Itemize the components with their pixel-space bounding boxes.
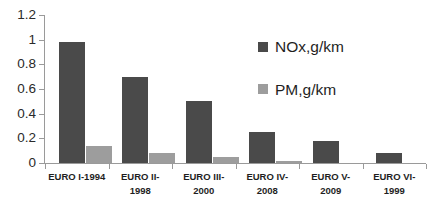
x-axis-label: EURO I-1994: [45, 170, 109, 184]
x-tick-mark: [236, 164, 237, 169]
y-tick-label: 0.2: [0, 132, 36, 146]
bar-group: [109, 15, 173, 163]
x-tick-mark: [172, 164, 173, 169]
bar-group: [172, 15, 236, 163]
x-axis-label: EURO V-2009: [299, 170, 363, 198]
legend-label: PM,g/km: [275, 82, 336, 98]
y-tick-label: 0.6: [0, 82, 36, 96]
y-tick-mark: [39, 114, 45, 115]
y-tick-label: 0.4: [0, 107, 36, 121]
legend-entry: NOx,g/km: [258, 39, 428, 55]
y-tick-mark: [39, 64, 45, 65]
x-tick-mark: [109, 164, 110, 169]
x-axis-label-line: EURO IV-: [236, 170, 300, 184]
bar-group: [45, 15, 109, 163]
legend-entry: PM,g/km: [258, 82, 428, 98]
bar-chart: 00.20.40.60.811.2 EURO I-1994EURO II-199…: [0, 0, 435, 216]
bar-nox: [376, 153, 402, 163]
bar-nox: [59, 42, 85, 163]
chart-legend: NOx,g/kmPM,g/km: [258, 39, 428, 124]
legend-label: NOx,g/km: [275, 39, 344, 55]
y-tick-mark: [39, 89, 45, 90]
x-axis-label: EURO IV-2008: [236, 170, 300, 198]
x-axis-label-line: EURO VI-: [363, 170, 427, 184]
x-axis-label-line: 2000: [172, 184, 236, 198]
x-axis-label: EURO VI-1999: [363, 170, 427, 198]
x-axis-label-line: 1999: [363, 184, 427, 198]
y-tick-label: 0: [0, 156, 36, 170]
x-axis-labels: EURO I-1994EURO II-1998EURO III-2000EURO…: [45, 170, 426, 216]
x-axis-label-line: EURO V-: [299, 170, 363, 184]
y-tick-mark: [39, 40, 45, 41]
x-axis-label: EURO II-1998: [109, 170, 173, 198]
y-tick-mark: [39, 138, 45, 139]
legend-swatch-icon: [258, 42, 268, 52]
x-tick-mark: [426, 164, 427, 169]
y-tick-label: 0.8: [0, 58, 36, 72]
x-axis-label-line: 1998: [109, 184, 173, 198]
y-tick-label: 1: [0, 33, 36, 47]
x-tick-mark: [299, 164, 300, 169]
x-axis-label: EURO III-2000: [172, 170, 236, 198]
y-tick-label: 1.2: [0, 8, 36, 22]
bar-nox: [186, 101, 212, 163]
bar-nox: [313, 141, 339, 163]
x-tick-mark: [363, 164, 364, 169]
bar-nox: [122, 77, 148, 163]
x-axis-label-line: EURO I-1994: [45, 170, 109, 184]
legend-swatch-icon: [258, 84, 268, 94]
x-axis-label-line: 2009: [299, 184, 363, 198]
x-axis-label-line: 2008: [236, 184, 300, 198]
x-axis-label-line: EURO II-: [109, 170, 173, 184]
x-tick-mark: [45, 164, 46, 169]
x-axis-label-line: EURO III-: [172, 170, 236, 184]
y-tick-mark: [39, 15, 45, 16]
bar-nox: [249, 132, 275, 163]
y-axis: 00.20.40.60.811.2: [0, 0, 40, 172]
